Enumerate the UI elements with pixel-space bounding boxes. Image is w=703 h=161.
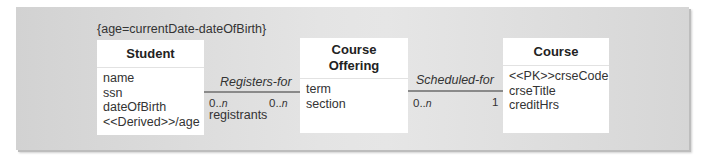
multiplicity-scheduled-for-left: 0..n — [413, 97, 432, 109]
attribute-crse-code: <<PK>>crseCode — [509, 69, 603, 84]
attribute-name: name — [103, 71, 198, 86]
attribute-credit-hrs: creditHrs — [509, 98, 603, 113]
attribute-derived-age: <<Derived>>/age — [103, 115, 198, 130]
class-student-name: Student — [97, 40, 204, 68]
attribute-term: term — [306, 82, 402, 97]
multiplicity-registers-for-right: 0..n — [269, 97, 288, 109]
attribute-crse-title: crseTitle — [509, 84, 603, 99]
class-course-name: Course — [503, 38, 609, 66]
association-scheduled-for-label: Scheduled-for — [416, 73, 494, 87]
class-student-attributes: name ssn dateOfBirth <<Derived>>/age — [97, 68, 204, 132]
association-registers-for-label: Registers-for — [220, 75, 292, 89]
class-course-offering-name-line2: Offering — [329, 58, 380, 74]
derived-constraint-note: {age=currentDate-dateOfBirth} — [97, 22, 266, 36]
class-course-attributes: <<PK>>crseCode crseTitle creditHrs — [503, 66, 609, 116]
class-course-offering-name: Course Offering — [300, 38, 408, 79]
class-course[interactable]: Course <<PK>>crseCode crseTitle creditHr… — [503, 38, 609, 133]
attribute-section: section — [306, 97, 402, 112]
association-registers-for-line[interactable] — [204, 91, 300, 93]
association-scheduled-for-line[interactable] — [408, 90, 503, 92]
class-student[interactable]: Student name ssn dateOfBirth <<Derived>>… — [97, 40, 204, 135]
class-course-offering[interactable]: Course Offering term section — [300, 38, 408, 133]
multiplicity-scheduled-for-right: 1 — [492, 96, 498, 108]
attribute-ssn: ssn — [103, 86, 198, 101]
class-course-offering-attributes: term section — [300, 79, 408, 114]
role-registrants: registrants — [209, 108, 267, 122]
class-course-offering-name-line1: Course — [332, 42, 377, 58]
attribute-date-of-birth: dateOfBirth — [103, 100, 198, 115]
